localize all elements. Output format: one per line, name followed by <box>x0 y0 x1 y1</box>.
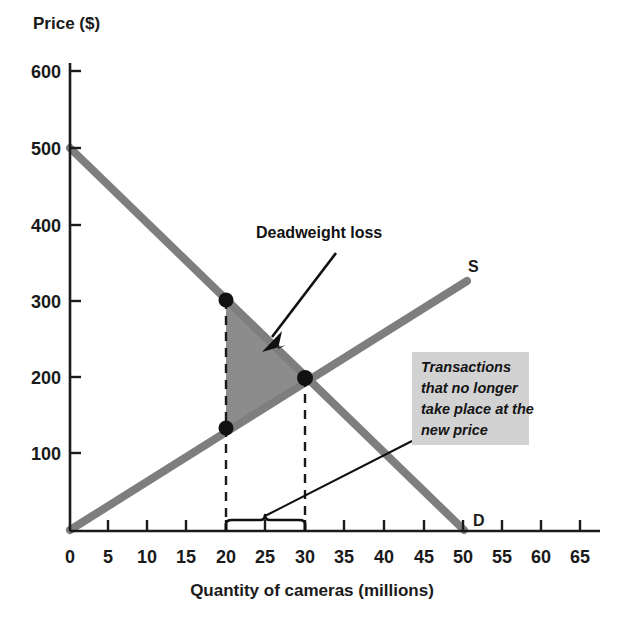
supply-curve <box>70 281 467 530</box>
callout-line-3: take place at the <box>421 401 534 417</box>
y-axis-ticks <box>70 71 81 453</box>
demand-curve <box>70 148 464 530</box>
x-tick-label-60: 60 <box>531 547 551 567</box>
x-tick-label-15: 15 <box>176 547 196 567</box>
point-supply-at-quota <box>219 421 234 436</box>
y-tick-label-100: 100 <box>31 444 61 464</box>
x-tick-label-25: 25 <box>255 547 275 567</box>
callout-leader-line <box>265 441 412 516</box>
y-tick-label-200: 200 <box>31 368 61 388</box>
x-tick-label-55: 55 <box>492 547 512 567</box>
y-tick-label-300: 300 <box>31 292 61 312</box>
y-tick-label-600: 600 <box>31 62 61 82</box>
x-tick-label-10: 10 <box>137 547 157 567</box>
y-tick-label-400: 400 <box>31 216 61 236</box>
supply-curve-label: S <box>468 258 479 275</box>
x-axis-title: Quantity of cameras (millions) <box>190 581 434 600</box>
deadweight-loss-label: Deadweight loss <box>256 224 382 241</box>
x-tick-label-35: 35 <box>334 547 354 567</box>
x-tick-label-40: 40 <box>374 547 394 567</box>
x-axis-ticks <box>108 520 580 531</box>
demand-curve-label: D <box>473 512 485 529</box>
deadweight-loss-arrow-line <box>272 253 336 337</box>
chart-canvas: 600 500 400 300 200 100 0 5 10 15 20 25 … <box>0 0 619 617</box>
point-equilibrium <box>297 370 313 386</box>
callout-line-1: Transactions <box>421 359 511 375</box>
y-axis-title: Price ($) <box>33 14 100 33</box>
callout-line-2: that no longer <box>421 380 519 396</box>
x-tick-label-5: 5 <box>103 547 113 567</box>
economics-chart-figure: 600 500 400 300 200 100 0 5 10 15 20 25 … <box>0 0 619 617</box>
x-tick-label-65: 65 <box>570 547 590 567</box>
point-demand-at-quota <box>219 293 234 308</box>
x-tick-label-30: 30 <box>295 547 315 567</box>
x-tick-label-0: 0 <box>65 547 75 567</box>
x-tick-label-50: 50 <box>453 547 473 567</box>
callout-line-4: new price <box>421 422 488 438</box>
x-tick-label-45: 45 <box>414 547 434 567</box>
x-tick-label-20: 20 <box>216 547 236 567</box>
y-tick-label-500: 500 <box>31 139 61 159</box>
